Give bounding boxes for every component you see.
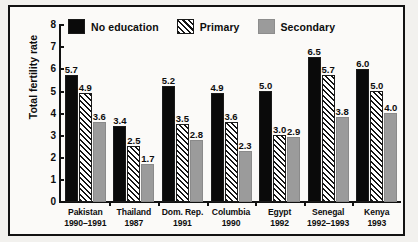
bar-thailand-no-education: 3.4	[113, 126, 126, 202]
bar-group-dom_rep: 5.23.52.8	[158, 24, 207, 202]
bar-group-senegal: 6.55.73.8	[304, 24, 353, 202]
chart-frame: No education Primary Secondary Total fer…	[8, 5, 405, 236]
x-label-thailand: Thailand1987	[110, 207, 159, 230]
bar-value-label: 5.0	[370, 80, 383, 91]
bar-value-label: 6.5	[308, 46, 321, 57]
bar-pakistan-no-education: 5.7	[65, 75, 78, 202]
y-axis-ticks: 8 7 6 5 4 3 2 1 0	[34, 7, 56, 238]
y-tick-5: 5	[34, 86, 56, 97]
bar-egypt-no-education: 5.0	[259, 91, 272, 202]
y-tick-0: 0	[34, 196, 56, 207]
y-tick-7: 7	[34, 41, 56, 52]
bar-thailand-secondary: 1.7	[141, 164, 154, 202]
bar-pakistan-primary: 4.9	[79, 93, 92, 202]
x-tickmark-6	[352, 201, 354, 206]
bar-value-label: 3.8	[336, 106, 349, 117]
y-tick-2: 2	[34, 152, 56, 163]
bar-value-label: 2.8	[190, 129, 203, 140]
bar-value-label: 2.3	[238, 140, 251, 151]
bar-egypt-secondary: 2.9	[287, 137, 300, 202]
bar-value-label: 6.0	[356, 58, 369, 69]
bar-group-columbia: 4.93.62.3	[207, 24, 256, 202]
bar-value-label: 4.9	[79, 82, 92, 93]
bar-dom_rep-secondary: 2.8	[190, 140, 203, 202]
x-label-year: 1990	[207, 218, 256, 229]
bar-value-label: 3.6	[224, 111, 237, 122]
bar-value-label: 1.7	[141, 153, 154, 164]
x-tickmark-2	[158, 201, 160, 206]
bar-columbia-primary: 3.6	[225, 122, 238, 202]
bar-value-label: 4.0	[384, 102, 397, 113]
bar-senegal-no-education: 6.5	[308, 57, 321, 202]
bar-value-label: 3.5	[176, 113, 189, 124]
bar-columbia-secondary: 2.3	[239, 151, 252, 202]
bar-senegal-secondary: 3.8	[336, 117, 349, 202]
x-label-year: 1992–1993	[304, 218, 353, 229]
bar-value-label: 5.7	[322, 64, 335, 75]
y-tick-8: 8	[34, 19, 56, 30]
bar-value-label: 5.2	[162, 75, 175, 86]
y-tick-4: 4	[34, 108, 56, 119]
x-label-year: 1990–1991	[61, 218, 110, 229]
x-label-year: 1992	[255, 218, 304, 229]
bar-value-label: 2.9	[287, 126, 300, 137]
x-label-country: Dom. Rep.	[158, 207, 207, 218]
bar-senegal-primary: 5.7	[322, 75, 335, 202]
y-tick-1: 1	[34, 174, 56, 185]
bar-value-label: 3.4	[113, 115, 126, 126]
x-label-kenya: Kenya1993	[352, 207, 401, 230]
x-label-year: 1987	[110, 218, 159, 229]
x-label-country: Columbia	[207, 207, 256, 218]
x-axis-labels: Pakistan1990–1991Thailand1987Dom. Rep.19…	[61, 207, 401, 230]
x-label-dom_rep: Dom. Rep.1991	[158, 207, 207, 230]
x-tickmark-4	[255, 201, 257, 206]
bar-group-thailand: 3.42.51.7	[110, 24, 159, 202]
x-tickmark-1	[109, 201, 111, 206]
bar-value-label: 3.6	[93, 111, 106, 122]
bar-columbia-no-education: 4.9	[211, 93, 224, 202]
bar-group-pakistan: 5.74.93.6	[61, 24, 110, 202]
bar-kenya-primary: 5.0	[370, 91, 383, 202]
bar-value-label: 2.5	[127, 135, 140, 146]
bar-egypt-primary: 3.0	[273, 135, 286, 202]
x-tickmark-5	[304, 201, 306, 206]
x-label-egypt: Egypt1992	[255, 207, 304, 230]
bar-value-label: 5.7	[65, 64, 78, 75]
bar-value-label: 4.9	[210, 82, 223, 93]
bar-kenya-secondary: 4.0	[384, 113, 397, 202]
x-label-senegal: Senegal1992–1993	[304, 207, 353, 230]
x-label-country: Egypt	[255, 207, 304, 218]
x-label-country: Thailand	[110, 207, 159, 218]
x-label-columbia: Columbia1990	[207, 207, 256, 230]
x-label-country: Kenya	[352, 207, 401, 218]
bar-pakistan-secondary: 3.6	[93, 122, 106, 202]
x-label-country: Pakistan	[61, 207, 110, 218]
plot-area: 5.74.93.63.42.51.75.23.52.84.93.62.35.03…	[61, 24, 401, 202]
bar-value-label: 5.0	[259, 80, 272, 91]
x-label-year: 1991	[158, 218, 207, 229]
bar-group-egypt: 5.03.02.9	[255, 24, 304, 202]
bar-value-label: 3.0	[273, 124, 286, 135]
bar-group-kenya: 6.05.04.0	[352, 24, 401, 202]
x-label-year: 1993	[352, 218, 401, 229]
chart-inner: No education Primary Secondary Total fer…	[10, 7, 403, 234]
y-tick-3: 3	[34, 130, 56, 141]
y-tick-6: 6	[34, 63, 56, 74]
x-tickmark-3	[207, 201, 209, 206]
bar-thailand-primary: 2.5	[127, 146, 140, 202]
bar-kenya-no-education: 6.0	[356, 69, 369, 203]
x-label-pakistan: Pakistan1990–1991	[61, 207, 110, 230]
bar-dom_rep-primary: 3.5	[176, 124, 189, 202]
bar-dom_rep-no-education: 5.2	[162, 86, 175, 202]
x-label-country: Senegal	[304, 207, 353, 218]
